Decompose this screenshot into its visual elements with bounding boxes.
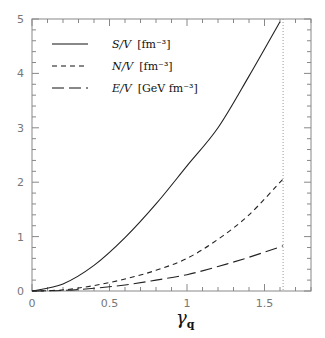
legend-label-e: E/V[GeV fm⁻³] xyxy=(111,82,198,95)
legend: S/V[fm⁻³] N/V[fm⁻³] E/V[GeV fm⁻³] xyxy=(52,38,198,95)
legend-label-n: N/V[fm⁻³] xyxy=(111,60,173,73)
chart-canvas: 00.511.5012345 S/V[fm⁻³] N/V[fm⁻³] E/V[G… xyxy=(0,0,325,338)
svg-text:4: 4 xyxy=(17,67,24,80)
series-long-dashed xyxy=(32,246,283,291)
svg-text:1.5: 1.5 xyxy=(256,297,274,310)
svg-text:3: 3 xyxy=(17,122,24,135)
tick-labels: 00.511.5012345 xyxy=(17,13,273,310)
series-dashed xyxy=(32,179,283,291)
x-axis-label: γq xyxy=(176,307,195,331)
svg-text:0.5: 0.5 xyxy=(101,297,119,310)
svg-text:1: 1 xyxy=(17,231,24,244)
svg-text:5: 5 xyxy=(17,13,24,26)
svg-text:2: 2 xyxy=(17,176,24,189)
svg-text:0: 0 xyxy=(17,285,24,298)
legend-label-s: S/V[fm⁻³] xyxy=(112,38,171,51)
svg-text:0: 0 xyxy=(29,297,36,310)
